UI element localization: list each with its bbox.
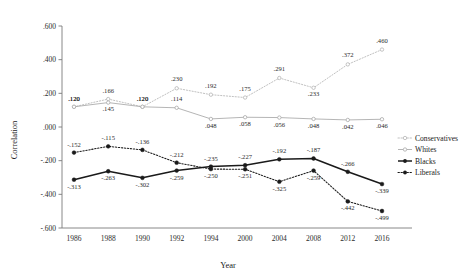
y-tick-label: .200 — [43, 89, 56, 98]
series-line-whites — [74, 103, 382, 120]
data-point-marker — [346, 200, 350, 204]
data-point-label: -.266 — [341, 160, 355, 167]
data-point-marker — [312, 157, 316, 161]
data-point-marker — [175, 161, 179, 165]
data-point-label: -.115 — [101, 134, 115, 141]
data-point-marker — [278, 116, 281, 119]
data-point-marker — [312, 117, 315, 120]
data-point-label: .114 — [171, 95, 183, 102]
data-point-label: .175 — [239, 85, 251, 92]
data-point-marker — [380, 209, 384, 213]
legend-label-text: Whites — [415, 145, 437, 154]
y-tick-label: .400 — [43, 55, 56, 64]
data-point-marker — [106, 144, 110, 148]
data-point-marker — [72, 105, 75, 108]
x-tick-label: 2016 — [375, 234, 390, 243]
data-point-marker — [175, 106, 178, 109]
correlation-line-chart: .600.400.200.000-.200-.400-.600 19861988… — [0, 0, 476, 280]
legend-label-text: Blacks — [415, 157, 436, 166]
data-point-label: .048 — [205, 122, 217, 129]
data-point-marker — [106, 169, 110, 173]
x-tick-label: 2004 — [272, 234, 287, 243]
series-line-liberals — [74, 146, 382, 211]
data-point-label: .046 — [376, 122, 388, 129]
series-lines — [74, 50, 382, 211]
data-point-label: -.251 — [238, 172, 252, 179]
data-point-label: .230 — [171, 75, 183, 82]
data-point-marker — [175, 169, 179, 173]
y-tick-label: -.200 — [40, 156, 56, 165]
x-tick-labels: 1986198819901992199420002004200820122016 — [67, 234, 390, 243]
data-point-marker — [209, 167, 213, 171]
y-tick-label: -.400 — [40, 190, 56, 199]
y-tick-label: .600 — [43, 22, 56, 31]
data-point-label: .120 — [68, 95, 80, 102]
point-value-labels: .120.166.120.230.192.175.291.233.372.460… — [67, 37, 389, 221]
data-point-label: .233 — [308, 90, 320, 97]
legend-item-liberals[interactable]: Liberals — [398, 168, 440, 177]
data-point-label: -.339 — [375, 187, 389, 194]
legend-item-blacks[interactable]: Blacks — [398, 157, 436, 166]
x-tick-label: 2000 — [238, 234, 253, 243]
data-point-marker — [346, 63, 349, 66]
data-point-marker — [346, 118, 349, 121]
data-point-marker — [277, 180, 281, 184]
x-tick-label: 1988 — [101, 234, 116, 243]
data-point-label: -.235 — [204, 155, 218, 162]
data-point-marker — [278, 76, 281, 79]
data-point-marker — [72, 178, 76, 182]
data-point-label: .042 — [342, 123, 354, 130]
data-point-label: .056 — [274, 121, 286, 128]
y-axis-title: Correlation — [9, 120, 19, 159]
data-point-marker — [209, 117, 212, 120]
x-axis-title: Year — [220, 260, 236, 270]
data-point-label: .291 — [274, 65, 286, 72]
data-point-label: -.325 — [272, 185, 286, 192]
data-point-label: -.313 — [67, 183, 81, 190]
data-point-marker — [141, 148, 145, 152]
y-tick-labels: .600.400.200.000-.200-.400-.600 — [40, 22, 56, 233]
x-tick-label: 2012 — [340, 234, 355, 243]
data-point-label: -.499 — [375, 214, 389, 221]
data-point-label: -.259 — [170, 174, 184, 181]
data-point-label: -.227 — [238, 153, 252, 160]
legend-label-text: Liberals — [415, 168, 440, 177]
legend-label-text: Conservatives — [415, 134, 458, 143]
data-point-marker — [175, 87, 178, 90]
series-line-blacks — [74, 158, 382, 184]
chart-svg: .600.400.200.000-.200-.400-.600 19861988… — [0, 0, 476, 280]
legend-marker — [403, 148, 406, 151]
data-point-label: -.136 — [136, 138, 150, 145]
data-point-label: -.212 — [170, 151, 184, 158]
series-markers — [72, 48, 384, 213]
data-point-label: .166 — [102, 87, 114, 94]
data-point-marker — [141, 176, 145, 180]
data-point-marker — [243, 116, 246, 119]
series-line-conservatives — [74, 50, 382, 107]
data-point-marker — [141, 105, 144, 108]
data-point-label: -.187 — [307, 146, 321, 153]
data-point-marker — [346, 170, 350, 174]
data-point-label: -.192 — [272, 147, 286, 154]
legend-item-conservatives[interactable]: Conservatives — [398, 134, 458, 143]
chart-legend: ConservativesWhitesBlacksLiberals — [398, 134, 458, 178]
x-tick-label: 1986 — [67, 234, 82, 243]
data-point-label: .192 — [205, 82, 217, 89]
data-point-label: .058 — [239, 120, 251, 127]
data-point-marker — [243, 167, 247, 171]
data-point-label: .145 — [102, 105, 114, 112]
y-tick-label: .000 — [43, 123, 56, 132]
data-point-label: -.263 — [101, 174, 115, 181]
data-point-label: -.250 — [204, 172, 218, 179]
data-point-label: .120 — [137, 95, 149, 102]
x-tick-label: 1990 — [135, 234, 150, 243]
data-point-marker — [380, 182, 384, 186]
y-tick-label: -.600 — [40, 224, 56, 233]
data-point-marker — [243, 163, 247, 167]
legend-item-whites[interactable]: Whites — [398, 145, 437, 154]
data-point-label: -.259 — [307, 174, 321, 181]
data-point-marker — [380, 118, 383, 121]
data-point-marker — [209, 93, 212, 96]
data-point-label: -.152 — [67, 141, 81, 148]
legend-marker — [403, 171, 407, 175]
